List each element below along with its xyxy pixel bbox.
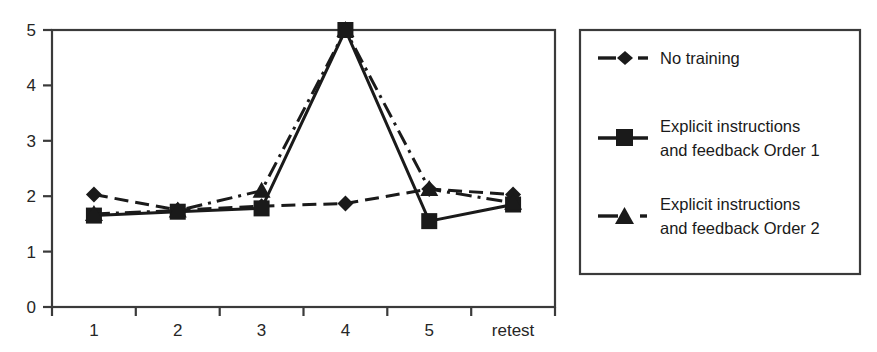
legend-item-label: Explicit instructions (660, 195, 800, 213)
square-marker-icon (616, 129, 633, 146)
legend-item-label: Explicit instructions (660, 117, 800, 135)
plot-area: 5 4 3 2 1 0 1 2 3 4 (0, 0, 570, 352)
x-tick-label: 3 (257, 321, 266, 340)
legend-item-label: No training (660, 49, 740, 67)
x-tick-label: retest (492, 321, 535, 340)
x-tick-label: 4 (341, 321, 350, 340)
y-tick-label: 5 (27, 21, 36, 40)
chart-figure: 5 4 3 2 1 0 1 2 3 4 (0, 0, 877, 352)
x-tick-label: 5 (424, 321, 433, 340)
y-tick-label: 1 (27, 243, 36, 262)
legend-box: No training Explicit instructions and fe… (578, 28, 868, 276)
y-tick-label: 2 (27, 187, 36, 206)
square-marker (254, 200, 270, 216)
legend-item-label-line2: and feedback Order 2 (660, 219, 820, 237)
legend-item-label-line2: and feedback Order 1 (660, 141, 820, 159)
y-tick-label: 4 (27, 76, 36, 95)
legend-svg: No training Explicit instructions and fe… (578, 28, 868, 276)
y-tick-label: 0 (27, 298, 36, 317)
y-axis-ticks (43, 30, 52, 307)
y-tick-label: 3 (27, 132, 36, 151)
x-tick-label: 1 (89, 321, 98, 340)
x-tick-labels: 1 2 3 4 5 retest (89, 321, 534, 340)
y-tick-labels: 5 4 3 2 1 0 (27, 21, 36, 317)
x-axis-ticks (52, 307, 555, 316)
square-marker (421, 213, 437, 229)
plot-svg: 5 4 3 2 1 0 1 2 3 4 (0, 0, 570, 352)
plot-frame (52, 30, 555, 307)
x-tick-label: 2 (173, 321, 182, 340)
